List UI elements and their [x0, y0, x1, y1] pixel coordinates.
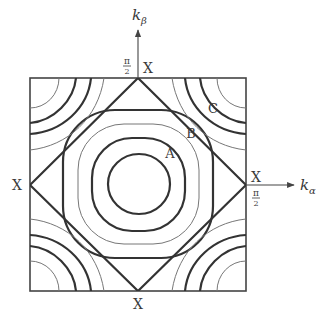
fermi-surface-diagram: kβ kα π 2 π 2 X X X X A B C [0, 0, 330, 320]
corner-contours-bottom-left [30, 219, 104, 291]
svg-text:2: 2 [253, 199, 258, 208]
svg-text:π: π [124, 56, 130, 66]
point-x-left: X [12, 177, 22, 193]
central-contour-1 [108, 154, 170, 214]
k-alpha-tick-pi-over-2: π 2 [252, 188, 260, 208]
svg-text:π: π [253, 188, 259, 198]
k-alpha-label: kα [300, 176, 316, 196]
contour-label-c: C [208, 101, 218, 116]
central-contour-3 [78, 124, 199, 244]
contour-label-a: A [164, 146, 175, 161]
k-beta-tick-pi-over-2: π 2 [123, 56, 131, 76]
point-x-bottom: X [133, 296, 143, 312]
point-x-top: X [143, 60, 153, 76]
k-beta-label: kβ [132, 6, 147, 26]
svg-text:2: 2 [124, 67, 129, 76]
corner-contours-bottom-right [172, 219, 246, 291]
contour-label-b: B [186, 126, 196, 141]
point-x-right: X [251, 169, 261, 185]
